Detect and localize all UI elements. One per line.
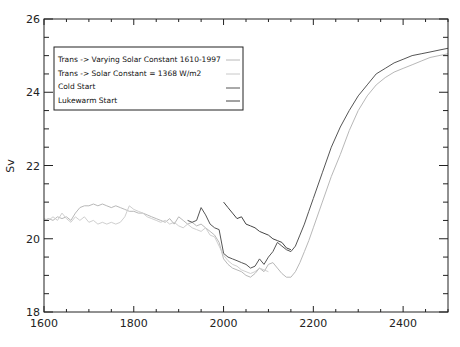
legend-label: Cold Start <box>58 82 95 91</box>
y-tick-label: 24 <box>26 86 40 99</box>
y-tick-label: 18 <box>26 306 40 319</box>
y-axis-title: Sv <box>4 159 17 173</box>
legend-label: Lukewarm Start <box>58 96 117 105</box>
x-tick-label: 1800 <box>120 317 148 330</box>
legend-label: Trans -> Solar Constant = 1368 W/m2 <box>57 69 202 78</box>
x-tick-label: 2000 <box>210 317 238 330</box>
y-tick-label: 22 <box>26 160 40 173</box>
series-line <box>224 202 291 250</box>
y-tick-label: 26 <box>26 13 40 26</box>
legend: Trans -> Varying Solar Constant 1610-199… <box>54 47 243 110</box>
legend-label: Trans -> Varying Solar Constant 1610-199… <box>57 55 221 64</box>
figure-caption <box>0 340 460 347</box>
x-tick-label: 2400 <box>389 317 417 330</box>
x-tick-label: 2200 <box>299 317 327 330</box>
y-tick-label: 20 <box>26 233 40 246</box>
line-chart: 16001800200022002400 1820222426 Sv Trans… <box>0 0 460 347</box>
legend-item: Trans -> Varying Solar Constant 1610-199… <box>57 55 240 64</box>
